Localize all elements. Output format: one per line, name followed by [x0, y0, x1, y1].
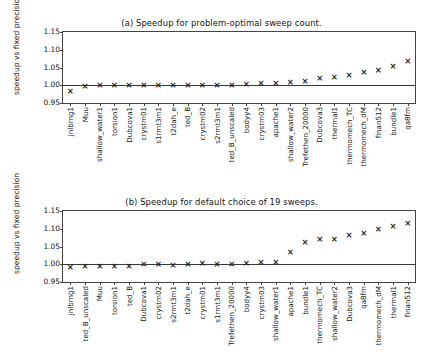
panel-b-y-axis-label: speedup vs fixed precision [12, 164, 21, 284]
y-tick-label: 1.00 [44, 260, 60, 268]
x-tick-mark [349, 103, 350, 106]
x-tick-mark [202, 282, 203, 285]
x-tick-label: bundle1 [390, 107, 398, 136]
panel-a-y-axis-label: speedup vs fixed precision [12, 0, 21, 105]
x-tick-mark [334, 103, 335, 106]
x-tick-mark [158, 282, 159, 285]
x-tick-mark [144, 103, 145, 106]
x-tick-mark [85, 282, 86, 285]
x-tick-mark [408, 282, 409, 285]
x-tick-label: s2rmt3m1 [214, 107, 222, 144]
x-tick-mark [290, 103, 291, 106]
figure-canvas: (a) Speedup for problem-optimal sweep co… [0, 0, 443, 358]
x-tick-label: s1rmt3m1 [155, 107, 163, 144]
x-tick-label: qa8fm [404, 107, 412, 130]
x-tick-mark [144, 282, 145, 285]
data-point-marker [375, 226, 382, 233]
x-tick-label: Trefethen_20000 [228, 286, 236, 346]
x-tick-label: bodyy4 [243, 286, 251, 312]
y-tick-mark [60, 211, 63, 212]
x-tick-mark [173, 103, 174, 106]
x-tick-label: ted_B_unscaled [82, 286, 90, 341]
y-tick-label: 1.15 [44, 207, 60, 215]
x-tick-mark [320, 103, 321, 106]
y-tick-label: 0.95 [44, 278, 60, 286]
y-tick-label: 1.10 [44, 46, 60, 54]
x-tick-label: t2dah_e [184, 286, 192, 315]
x-tick-mark [129, 282, 130, 285]
y-tick-mark [60, 229, 63, 230]
chart-panel-a: (a) Speedup for problem-optimal sweep co… [0, 0, 443, 179]
x-tick-label: crystm03 [258, 107, 266, 140]
x-tick-label: crystm02 [199, 107, 207, 140]
x-tick-label: s2rmt3m1 [170, 286, 178, 323]
x-tick-label: t2dah_e [170, 107, 178, 136]
x-tick-mark [202, 103, 203, 106]
data-point-marker [346, 232, 353, 239]
y-tick-label: 1.00 [44, 81, 60, 89]
x-tick-label: bundle1 [302, 286, 310, 315]
x-tick-label: finan512 [375, 107, 383, 138]
x-tick-mark [349, 282, 350, 285]
reference-line-unity [63, 264, 415, 265]
panel-a-data-layer: 0.951.001.051.101.15jnlbrng1Muushallow_w… [63, 32, 415, 103]
x-tick-mark [334, 282, 335, 285]
y-tick-mark [60, 68, 63, 69]
x-tick-label: thermomech_dM [360, 107, 368, 167]
x-tick-mark [100, 103, 101, 106]
y-tick-mark [60, 103, 63, 104]
x-tick-mark [100, 282, 101, 285]
x-tick-label: crystm01 [199, 286, 207, 319]
y-tick-mark [60, 282, 63, 283]
x-tick-mark [217, 103, 218, 106]
panel-b-title: (b) Speedup for default choice of 19 swe… [0, 197, 443, 207]
x-tick-mark [378, 103, 379, 106]
x-tick-mark [85, 103, 86, 106]
x-tick-mark [290, 282, 291, 285]
x-tick-label: Dubcova1 [126, 107, 134, 143]
data-point-marker [316, 75, 323, 82]
x-tick-mark [114, 282, 115, 285]
x-tick-label: torsion1 [111, 286, 119, 315]
x-tick-label: ted_B [126, 286, 134, 306]
x-tick-label: torsion1 [111, 107, 119, 136]
x-tick-label: crystm03 [258, 286, 266, 319]
data-point-marker [360, 69, 367, 76]
x-tick-mark [188, 103, 189, 106]
x-tick-label: Trefethen_20000 [302, 107, 310, 167]
x-tick-mark [378, 282, 379, 285]
y-tick-label: 1.10 [44, 225, 60, 233]
x-tick-label: crystm02 [155, 286, 163, 319]
x-tick-label: Dubcova3 [316, 107, 324, 143]
y-tick-mark [60, 247, 63, 248]
data-point-marker [346, 72, 353, 79]
x-tick-mark [158, 103, 159, 106]
x-tick-label: thermomech_TC [316, 286, 324, 344]
data-point-marker [360, 230, 367, 237]
panel-b-data-layer: 0.951.001.051.101.15jnlbrng1ted_B_unscal… [63, 211, 415, 282]
x-tick-mark [173, 282, 174, 285]
x-tick-mark [232, 103, 233, 106]
data-point-marker [390, 63, 397, 70]
x-tick-mark [364, 103, 365, 106]
y-tick-label: 1.05 [44, 243, 60, 251]
x-tick-mark [276, 282, 277, 285]
x-tick-label: Muu [96, 286, 104, 301]
data-point-marker [170, 262, 177, 269]
data-point-marker [302, 239, 309, 246]
x-tick-mark [188, 282, 189, 285]
panel-b-plot-area: 0.951.001.051.101.15jnlbrng1ted_B_unscal… [62, 210, 416, 283]
x-tick-mark [114, 103, 115, 106]
x-tick-mark [393, 103, 394, 106]
x-tick-mark [408, 103, 409, 106]
chart-panel-b: (b) Speedup for default choice of 19 swe… [0, 179, 443, 358]
x-tick-mark [70, 282, 71, 285]
data-point-marker [316, 236, 323, 243]
x-tick-label: qa8fm [360, 286, 368, 309]
x-tick-mark [70, 103, 71, 106]
data-point-marker [375, 67, 382, 74]
x-tick-label: ted_B_unscaled [228, 107, 236, 162]
data-point-marker [258, 259, 265, 266]
x-tick-label: thermal1 [390, 286, 398, 318]
x-tick-label: Dubcova1 [140, 286, 148, 322]
